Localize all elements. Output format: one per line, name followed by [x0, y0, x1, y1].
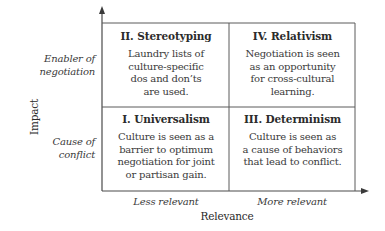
- description-line: barrier to optimum: [103, 144, 229, 157]
- quadrant-stereotyping: II. Stereotyping Laundry lists of cultur…: [103, 30, 229, 98]
- description-line: learning.: [230, 86, 355, 99]
- y-axis-arrow-icon: [99, 6, 105, 14]
- description-line: as an opportunity: [230, 61, 355, 74]
- y-level-line: Enabler of: [5, 53, 95, 66]
- y-level-line: Cause of: [5, 136, 95, 149]
- description-line: or partisan gain.: [103, 169, 229, 182]
- description-line: Negotiation is seen: [230, 48, 355, 61]
- quadrant-title: IV. Relativism: [230, 30, 355, 43]
- description-line: are used.: [103, 86, 229, 99]
- description-line: that lead to conflict.: [230, 156, 355, 169]
- y-level-cause-of-conflict: Cause of conflict: [5, 136, 95, 161]
- quadrant-description: Culture is seen as a cause of behaviors …: [230, 131, 355, 169]
- description-line: Laundry lists of: [103, 48, 229, 61]
- description-line: Culture is seen as: [230, 131, 355, 144]
- description-line: negotiation for joint: [103, 156, 229, 169]
- x-level-more-relevant: More relevant: [229, 196, 355, 207]
- quadrant-title: I. Universalism: [103, 113, 229, 126]
- y-axis-title: Impact: [28, 97, 40, 137]
- quadrant-description: Laundry lists of culture-specific dos an…: [103, 48, 229, 98]
- quadrant-relativism: IV. Relativism Negotiation is seen as an…: [230, 30, 355, 98]
- y-level-enabler-of-negotiation: Enabler of negotiation: [5, 53, 95, 78]
- quadrant-title: II. Stereotyping: [103, 30, 229, 43]
- y-level-line: negotiation: [5, 66, 95, 79]
- description-line: a cause of behaviors: [230, 144, 355, 157]
- quadrant-universalism: I. Universalism Culture is seen as a bar…: [103, 113, 229, 181]
- quadrant-determinism: III. Determinism Culture is seen as a ca…: [230, 113, 355, 169]
- quadrant-description: Negotiation is seen as an opportunity fo…: [230, 48, 355, 98]
- y-level-line: conflict: [5, 149, 95, 162]
- x-axis-title: Relevance: [177, 210, 277, 222]
- description-line: for cross-cultural: [230, 73, 355, 86]
- x-axis-arrow-icon: [361, 188, 369, 194]
- description-line: Culture is seen as a: [103, 131, 229, 144]
- quadrant-title: III. Determinism: [230, 113, 355, 126]
- quadrant-description: Culture is seen as a barrier to optimum …: [103, 131, 229, 181]
- description-line: culture-specific: [103, 61, 229, 74]
- x-level-less-relevant: Less relevant: [103, 196, 229, 207]
- description-line: dos and don’ts: [103, 73, 229, 86]
